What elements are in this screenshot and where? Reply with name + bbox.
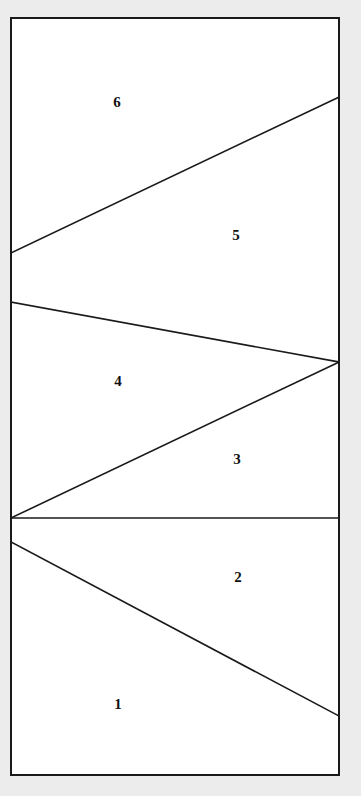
region-label-5: 5 — [232, 227, 240, 243]
outer-rectangle — [11, 18, 339, 775]
region-label-4: 4 — [114, 373, 122, 389]
diagram-canvas: 654321 — [0, 0, 361, 796]
region-label-3: 3 — [233, 451, 241, 467]
region-label-2: 2 — [234, 569, 242, 585]
figure-root: 654321 — [0, 0, 361, 796]
region-label-6: 6 — [113, 94, 121, 110]
region-label-1: 1 — [114, 696, 122, 712]
